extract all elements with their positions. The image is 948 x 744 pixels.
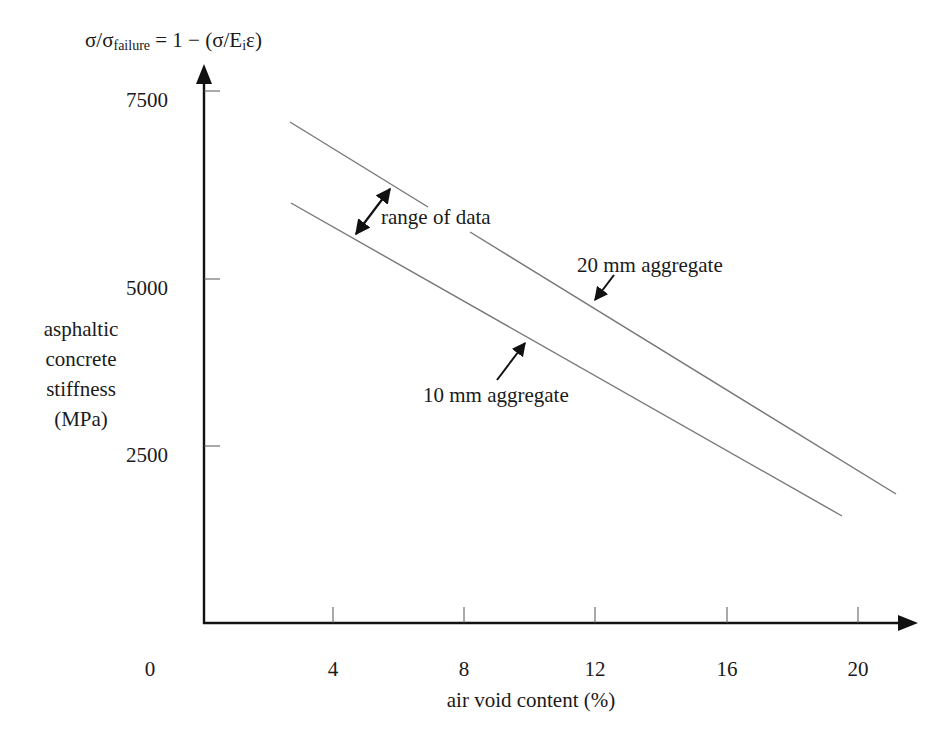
y-axis-label-line: stiffness <box>22 374 140 404</box>
x-tick-label: 12 <box>575 657 615 682</box>
y-axis-label-line: concrete <box>22 344 140 374</box>
y-tick-label: 7500 <box>88 88 168 113</box>
y-axis-label-line: asphaltic <box>22 314 140 344</box>
y-axis-arrow-icon <box>196 64 212 84</box>
y-axis <box>196 64 212 624</box>
agg10-annotation: 10 mm aggregate <box>423 385 569 406</box>
x-tick-label: 0 <box>130 657 170 682</box>
agg20-arrow-icon <box>595 275 614 300</box>
y-ticks <box>204 91 220 446</box>
series-10mm-line <box>291 203 842 516</box>
agg10-arrow-icon <box>497 343 525 380</box>
x-tick-label: 20 <box>838 657 878 682</box>
chart-title: σ/σfailure = 1 − (σ/Eiε) <box>85 30 262 53</box>
y-axis-label-line: (MPa) <box>22 404 140 434</box>
y-tick-label: 5000 <box>88 276 168 301</box>
range-of-data-annotation: range of data <box>381 207 491 228</box>
y-axis-label: asphaltic concrete stiffness (MPa) <box>22 314 140 434</box>
x-tick-label: 8 <box>444 657 484 682</box>
x-tick-label: 4 <box>313 657 353 682</box>
x-axis-arrow-icon <box>898 615 918 631</box>
agg20-annotation: 20 mm aggregate <box>577 255 723 276</box>
y-tick-label: 2500 <box>88 443 168 468</box>
series-20mm-line <box>290 122 896 494</box>
x-axis-label: air void content (%) <box>381 688 681 713</box>
x-axis <box>203 615 918 631</box>
x-ticks <box>333 607 858 623</box>
x-tick-label: 16 <box>707 657 747 682</box>
